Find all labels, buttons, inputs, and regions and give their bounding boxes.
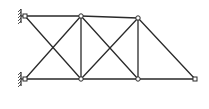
truss-node-G: [193, 77, 197, 81]
truss-node-B: [23, 77, 27, 81]
truss-node-F: [136, 77, 140, 81]
truss-node-D: [79, 77, 83, 81]
truss-member-EG: [138, 18, 195, 79]
truss-diagram: [0, 0, 209, 109]
truss-node-C: [79, 14, 83, 18]
truss-node-E: [136, 16, 140, 20]
truss-node-A: [23, 14, 27, 18]
truss-member-CE: [81, 16, 138, 18]
